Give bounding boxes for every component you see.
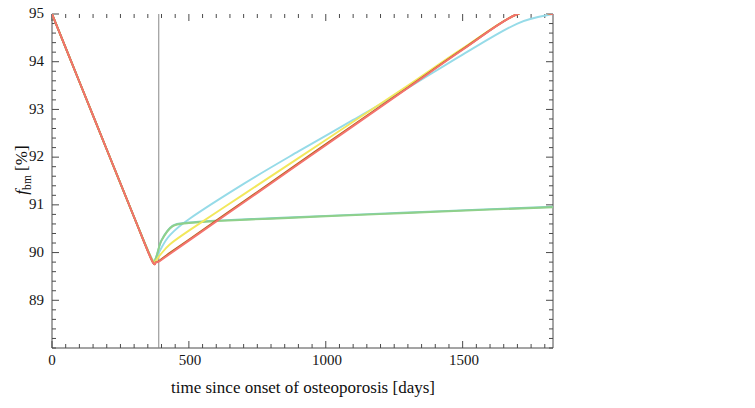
y-axis-subscript: bm [21, 175, 34, 190]
chart-canvas [0, 0, 600, 408]
y-tick-label: 89 [10, 292, 44, 309]
series-line-a-oba [52, 11, 553, 263]
y-tick-label: 94 [10, 53, 44, 70]
x-axis-title: time since onset of osteoporosis [days] [52, 378, 554, 398]
x-tick-label: 1000 [302, 352, 352, 369]
figure-root: 95 94 93 92 91 90 89 0 500 1000 1500 tim… [0, 0, 755, 408]
series-line-p-obp [52, 11, 553, 264]
series-line-d-obp [52, 14, 553, 262]
x-tick-label: 500 [165, 352, 215, 369]
y-axis-title: fbm [%] [12, 130, 32, 210]
y-axis-symbol: f [12, 190, 31, 195]
y-axis-unit: [%] [12, 145, 31, 170]
y-tick-label: 93 [10, 101, 44, 118]
series-line-d-obu [52, 11, 553, 264]
legend-clip: DOBuPOBpAOBaAOCakRANK–RANKLDOBp [565, 0, 755, 200]
axis-frame [52, 14, 553, 348]
series-line-a-oca [52, 14, 553, 262]
series-line-k-rank-rankl [52, 14, 553, 262]
series-group [52, 11, 553, 264]
y-tick-label: 90 [10, 244, 44, 261]
x-tick-label: 0 [27, 352, 77, 369]
y-tick-label: 95 [10, 5, 44, 22]
plot-area: 95 94 93 92 91 90 89 0 500 1000 1500 tim… [0, 0, 600, 408]
x-tick-label: 1500 [439, 352, 489, 369]
